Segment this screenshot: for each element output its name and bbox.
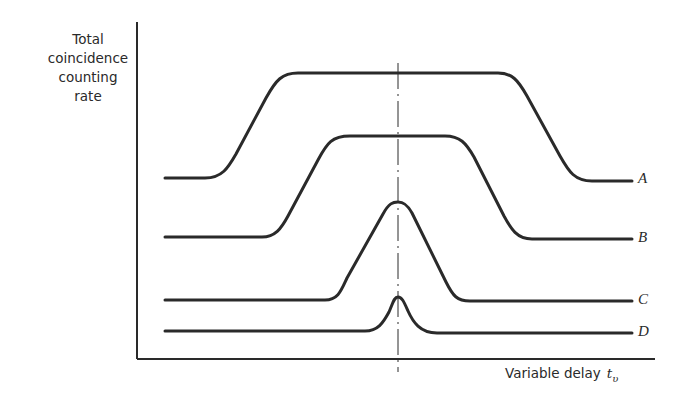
x-axis-label-text: Variable delay <box>505 365 601 381</box>
plot-area <box>0 0 683 407</box>
x-axis-label: Variable delaytυ <box>505 365 618 381</box>
curve-label-b: B <box>638 229 647 246</box>
curve-label-c: C <box>638 291 648 308</box>
curve-label-d: D <box>638 323 649 340</box>
curve-label-a: A <box>638 170 647 187</box>
x-axis-subscript: υ <box>612 373 618 384</box>
